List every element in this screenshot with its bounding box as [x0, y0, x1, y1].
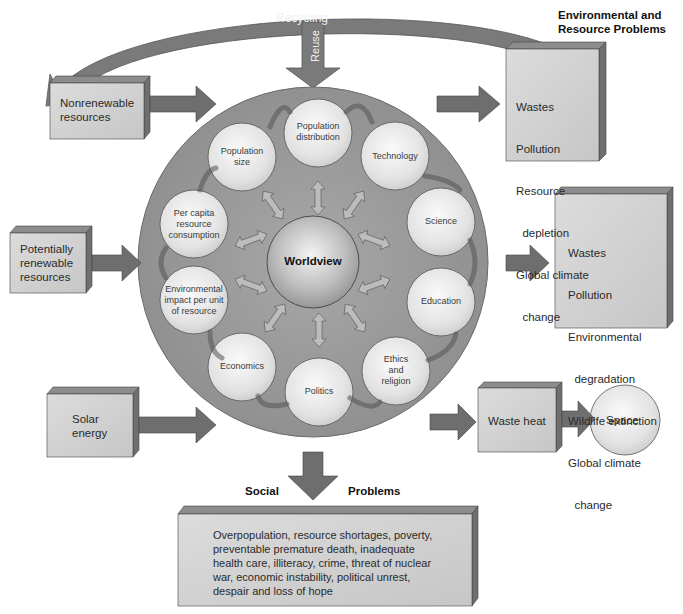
arrow-nonrenewable-in — [150, 86, 216, 122]
env-box-2-text: Wastes Pollution Environmental degradati… — [568, 218, 657, 526]
node-education: Education — [407, 296, 475, 307]
arrow-social-out — [288, 452, 338, 500]
social-heading-left: Social — [245, 484, 279, 498]
social-heading-right: Problems — [348, 484, 400, 498]
node-per-capita-consumption: Per capita resource consumption — [160, 208, 228, 241]
worldview-label: Worldview — [283, 255, 343, 267]
arrow-renewable-in — [92, 245, 141, 281]
arrow-env-out-1 — [437, 86, 500, 122]
node-population-size: Population size — [208, 146, 276, 168]
env-heading: Environmental and Resource Problems — [558, 8, 666, 36]
node-technology: Technology — [361, 151, 429, 162]
space-label: Space — [606, 413, 639, 427]
arrow-solar-in — [139, 407, 216, 443]
node-population-distribution: Population distribution — [284, 121, 352, 143]
social-box-text: Overpopulation, resource shortages, pove… — [213, 528, 432, 598]
renewable-label: Potentially renewable resources — [20, 242, 73, 284]
node-ethics-religion: Ethics and religion — [362, 354, 430, 387]
node-politics: Politics — [285, 386, 353, 397]
node-economics: Economics — [208, 361, 276, 372]
reuse-label: Reuse — [309, 30, 321, 62]
node-environmental-impact: Environmental impact per unit of resourc… — [157, 284, 231, 317]
solar-label: Solar energy — [72, 412, 107, 440]
arrow-waste-heat-out — [430, 404, 476, 440]
nonrenewable-label: Nonrenewable resources — [60, 96, 134, 124]
waste-heat-label: Waste heat — [488, 414, 546, 428]
recycling-label: Recycling — [276, 11, 328, 25]
node-science: Science — [407, 216, 475, 227]
